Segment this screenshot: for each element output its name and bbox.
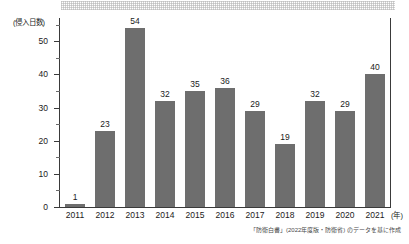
bar-group: 29	[330, 18, 360, 207]
x-tick-label: 2011	[58, 211, 92, 220]
y-tick-label: 40	[39, 70, 48, 79]
x-axis-unit-label: (年)	[391, 211, 403, 220]
bar	[335, 111, 355, 207]
bar-group: 54	[120, 18, 150, 207]
bar	[125, 28, 145, 207]
bar-value-label: 32	[150, 90, 180, 99]
x-tick-label: 2020	[328, 211, 362, 220]
y-tick-label: 0	[43, 203, 48, 212]
bar-value-label: 40	[360, 63, 390, 72]
x-tick-label: 2021	[358, 211, 392, 220]
bar-group: 40	[360, 18, 390, 207]
x-tick-label: 2015	[178, 211, 212, 220]
x-tick-label: 2019	[298, 211, 332, 220]
bar-group: 32	[300, 18, 330, 207]
bar-value-label: 36	[210, 77, 240, 86]
x-tick-label: 2017	[238, 211, 272, 220]
x-tick-label: 2014	[148, 211, 182, 220]
bar-value-label: 35	[180, 80, 210, 89]
bar-value-label: 1	[60, 193, 90, 202]
bar	[245, 111, 265, 207]
plot-area: 123543235362919322940	[60, 18, 390, 207]
x-tick-label: 2013	[118, 211, 152, 220]
bar	[365, 74, 385, 207]
bar-group: 35	[180, 18, 210, 207]
bar	[65, 204, 85, 207]
bar	[305, 101, 325, 207]
bar-group: 23	[90, 18, 120, 207]
bar-value-label: 29	[330, 100, 360, 109]
bar	[95, 131, 115, 207]
bar-value-label: 54	[120, 17, 150, 26]
source-note: 「防衛白書」(2022年度版・防衛省) のデータを基に作成	[250, 226, 401, 234]
x-tick-label: 2018	[268, 211, 302, 220]
bar-value-label: 19	[270, 133, 300, 142]
bar-group: 36	[210, 18, 240, 207]
bar-value-label: 32	[300, 90, 330, 99]
bar-group: 1	[60, 18, 90, 207]
bar	[155, 101, 175, 207]
bar-group: 29	[240, 18, 270, 207]
bar	[185, 91, 205, 207]
y-axis-title: (侵入日数)	[13, 16, 45, 27]
bar-group: 32	[150, 18, 180, 207]
y-tick-label: 10	[39, 170, 48, 179]
bar-group: 19	[270, 18, 300, 207]
y-tick-major	[54, 207, 60, 208]
bar	[215, 88, 235, 207]
y-tick-label: 20	[39, 137, 48, 146]
bar-value-label: 23	[90, 120, 120, 129]
bar-value-label: 29	[240, 100, 270, 109]
bar	[275, 144, 295, 207]
x-tick-label: 2012	[88, 211, 122, 220]
bar-chart: (侵入日数) 01020304050 123543235362919322940…	[0, 12, 409, 244]
x-axis-line	[59, 207, 391, 208]
y-tick-label: 50	[39, 37, 48, 46]
plot-right-edge	[390, 18, 391, 208]
y-tick-label: 30	[39, 104, 48, 113]
decorative-halftone-band	[61, 1, 395, 10]
x-tick-label: 2016	[208, 211, 242, 220]
